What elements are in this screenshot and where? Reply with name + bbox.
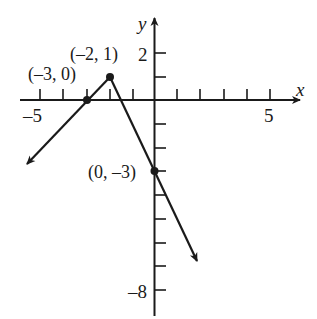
x-tick-label-neg5: –5	[22, 105, 42, 126]
y-tick-label-neg8: –8	[127, 281, 147, 302]
point-neg3-0	[83, 96, 91, 104]
point-label-neg3-0: (–3, 0)	[28, 64, 76, 85]
graph-canvas: y x –5 5 2 –8 (–3, 0) (–2, 1) (0, –3)	[0, 0, 317, 319]
y-tick-label-2: 2	[138, 44, 148, 65]
point-0-neg3	[151, 167, 159, 175]
y-axis-label: y	[136, 13, 147, 34]
x-tick-label-5: 5	[264, 105, 274, 126]
point-neg2-1	[106, 73, 114, 81]
point-label-0-neg3: (0, –3)	[88, 162, 136, 183]
x-axis-label: x	[295, 79, 305, 100]
point-label-neg2-1: (–2, 1)	[70, 44, 118, 65]
